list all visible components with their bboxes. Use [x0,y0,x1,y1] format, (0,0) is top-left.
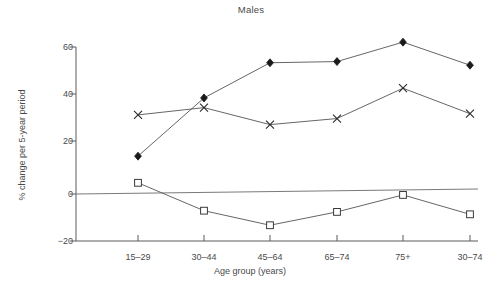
data-series-group [134,38,474,228]
cross-series-point-4 [399,84,407,92]
diamond-series-point-2 [267,59,274,67]
square-series-point-0 [135,179,142,186]
square-series-point-3 [334,209,341,216]
diamond-series-point-4 [400,38,407,46]
cross-series-point-5 [466,110,474,118]
diamond-series-point-5 [467,61,474,69]
diamond-series-line [138,42,470,156]
square-series-line [138,183,470,225]
zero-reference-line [76,189,478,194]
diamond-series-point-0 [135,152,142,160]
plot-area [0,0,502,294]
diamond-series-point-1 [201,94,208,102]
chart-figure: Males % change per 5-year period Age gro… [0,0,502,294]
cross-series-line [138,88,470,124]
square-series-point-2 [267,222,274,229]
diamond-series-point-3 [334,58,341,66]
axes [70,47,478,241]
square-series-point-4 [400,192,407,199]
square-series-point-5 [467,211,474,218]
square-series-point-1 [201,207,208,214]
